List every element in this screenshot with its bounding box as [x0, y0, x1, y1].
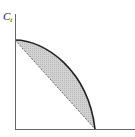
diagram-canvas [0, 0, 135, 137]
ppf-diagram: Ct [0, 0, 135, 137]
dashed-chord-line [15, 40, 95, 129]
y-axis-label: Ct [3, 11, 12, 24]
y-axis-label-subscript: t [10, 16, 12, 24]
